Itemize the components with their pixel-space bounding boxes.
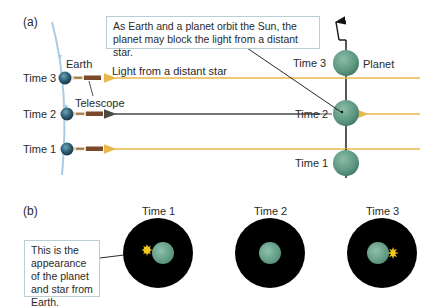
planet-label: Planet bbox=[363, 58, 394, 70]
planet-time3 bbox=[333, 50, 359, 76]
earth-time3-label: Time 3 bbox=[23, 72, 56, 84]
transit-callout: As Earth and a planet orbit the Sun, the… bbox=[106, 16, 320, 49]
planet-time3-label: Time 3 bbox=[293, 57, 326, 69]
view-time3-label: Time 3 bbox=[366, 205, 399, 217]
planet-time1 bbox=[333, 150, 359, 176]
earth-time2 bbox=[61, 108, 104, 121]
panel-a-label: (a) bbox=[23, 16, 38, 28]
view-time2 bbox=[235, 218, 305, 288]
earth-time2-label: Time 2 bbox=[23, 108, 56, 120]
planet-time2 bbox=[333, 100, 359, 126]
view-time2-label: Time 2 bbox=[254, 205, 287, 217]
view-time1 bbox=[123, 218, 193, 288]
earth-time1 bbox=[61, 143, 104, 156]
transit-diagram: (a) As Earth and a planet orbit the Sun,… bbox=[0, 0, 440, 308]
appearance-callout: This is the appearance of the planet and… bbox=[24, 240, 100, 297]
light-label: Light from a distant star bbox=[112, 65, 227, 77]
earth-label: Earth bbox=[66, 58, 92, 70]
telescope-label: Telescope bbox=[75, 97, 125, 109]
planet-time1-label: Time 1 bbox=[295, 157, 328, 169]
view-time3 bbox=[347, 218, 417, 288]
earth-time1-label: Time 1 bbox=[23, 143, 56, 155]
planet-time2-label: Time 2 bbox=[295, 108, 328, 120]
panel-b-label: (b) bbox=[23, 205, 38, 217]
earth-time3 bbox=[59, 72, 102, 85]
view-time1-label: Time 1 bbox=[142, 205, 175, 217]
